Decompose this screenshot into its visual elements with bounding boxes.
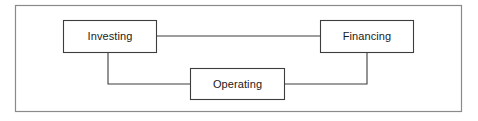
node-label-financing: Financing (320, 20, 414, 53)
diagram-canvas: Investing Financing Operating (0, 0, 478, 121)
diagram-graphics (0, 0, 478, 121)
node-label-investing: Investing (63, 20, 157, 53)
node-label-operating: Operating (190, 68, 285, 100)
